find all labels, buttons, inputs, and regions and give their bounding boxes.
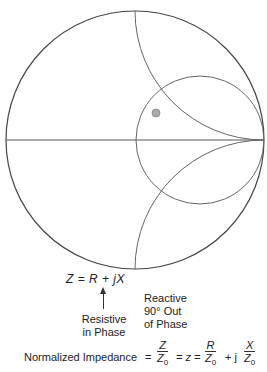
resistive-line-1: Resistive [78, 313, 130, 326]
frac1-numerator: Z [159, 339, 166, 351]
equals-sign: = [145, 351, 151, 363]
fraction-z-over-z0: Z Z0 [157, 339, 168, 369]
fraction-x-over-z0: X Z0 [244, 339, 255, 369]
smith-chart [0, 0, 267, 270]
impedance-equation: Z = R + jX [66, 273, 125, 285]
resistive-label: Resistive in Phase [78, 313, 130, 339]
reactive-line-1: Reactive [144, 292, 214, 305]
frac1-denominator: Z0 [157, 352, 168, 369]
plus-j-text: + j [225, 351, 237, 363]
reactive-label: Reactive 90° Out of Phase [144, 292, 214, 331]
reactive-line-3: of Phase [144, 318, 214, 331]
frac3-numerator: X [246, 339, 253, 351]
impedance-point-marker [152, 109, 160, 117]
resistive-line-2: in Phase [78, 326, 130, 339]
frac2-denominator: Z0 [205, 352, 216, 369]
frac3-denominator: Z0 [244, 352, 255, 369]
positive-reactance-arc [135, 0, 267, 140]
frac2-numerator: R [207, 339, 215, 351]
fraction-r-over-z0: R Z0 [205, 339, 216, 369]
normalized-impedance-label: Normalized Impedance [24, 351, 137, 363]
arrow-shaft [103, 289, 104, 309]
equals-z-text: = z = [176, 351, 200, 363]
reactive-line-2: 90° Out [144, 305, 214, 318]
